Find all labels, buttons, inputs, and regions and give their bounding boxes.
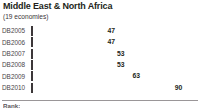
footer-divider	[2, 100, 198, 101]
bar-rect	[31, 71, 33, 81]
bar-category-label: DB2009	[2, 73, 29, 80]
bar-row: DB200963	[0, 71, 200, 82]
bar-value-label: 47	[108, 38, 116, 45]
chart-subtitle: (19 economies)	[3, 13, 48, 20]
bar-value-label: 47	[108, 27, 116, 34]
bar-track	[31, 83, 172, 93]
bar-row: DB200853	[0, 60, 200, 71]
bar-rect	[31, 83, 33, 93]
bar-row: DB200547	[0, 26, 200, 37]
bar-row: DB200647	[0, 37, 200, 48]
bar-value-label: 53	[117, 61, 125, 68]
bar-category-label: DB2006	[2, 39, 29, 46]
bar-track	[31, 37, 105, 47]
bar-rect	[31, 49, 33, 59]
footer-caption: Rank:	[3, 102, 20, 109]
bar-rect	[31, 37, 33, 47]
bar-row: DB201090	[0, 83, 200, 94]
bar-track	[31, 60, 114, 70]
bar-rect	[31, 26, 33, 36]
bar-row: DB200753	[0, 49, 200, 60]
bar-chart-plot-area: DB200547DB200647DB200753DB200853DB200963…	[0, 26, 200, 94]
bar-category-label: DB2010	[2, 84, 29, 91]
bar-track	[31, 71, 130, 81]
bar-value-label: 63	[133, 72, 141, 79]
bar-value-label: 53	[117, 50, 125, 57]
bar-category-label: DB2007	[2, 50, 29, 57]
bar-track	[31, 49, 114, 59]
chart-title: Middle East & North Africa	[3, 1, 112, 11]
bar-track	[31, 26, 105, 36]
bar-value-label: 90	[175, 84, 183, 91]
bar-rect	[31, 60, 33, 70]
bar-category-label: DB2008	[2, 61, 29, 68]
chart-panel: Middle East & North Africa (19 economies…	[0, 0, 200, 109]
bar-category-label: DB2005	[2, 27, 29, 34]
